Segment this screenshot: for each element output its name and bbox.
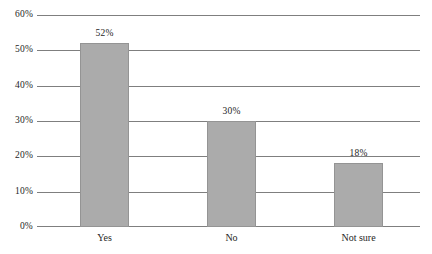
bar-value-label: 18% xyxy=(349,149,367,159)
y-tick-label: 50% xyxy=(0,46,33,56)
x-tick-label-yes: Yes xyxy=(97,233,112,243)
bar-value-label: 52% xyxy=(95,29,113,39)
y-tick-label: 40% xyxy=(0,81,33,91)
y-axis: 0% 10% 20% 30% 40% 50% 60% xyxy=(0,15,33,227)
bar-chart: 0% 10% 20% 30% 40% 50% 60% 52% 30% 18% xyxy=(0,0,432,254)
bar-no[interactable] xyxy=(207,121,256,227)
bar-slot-not-sure: 18% xyxy=(334,15,383,227)
y-tick-label: 10% xyxy=(0,187,33,197)
bar-value-label: 30% xyxy=(222,107,240,117)
x-tick-label-not-sure: Not sure xyxy=(341,233,375,243)
y-tick-label: 20% xyxy=(0,152,33,162)
bar-yes[interactable] xyxy=(80,43,129,227)
x-axis: Yes No Not sure xyxy=(37,233,420,253)
bar-not-sure[interactable] xyxy=(334,163,383,227)
bars-layer: 52% 30% 18% xyxy=(37,15,420,227)
bar-slot-no: 30% xyxy=(207,15,256,227)
y-tick-label: 60% xyxy=(0,10,33,20)
y-tick-label: 30% xyxy=(0,116,33,126)
y-tick-label: 0% xyxy=(0,222,33,232)
x-tick-label-no: No xyxy=(225,233,237,243)
bar-slot-yes: 52% xyxy=(80,15,129,227)
